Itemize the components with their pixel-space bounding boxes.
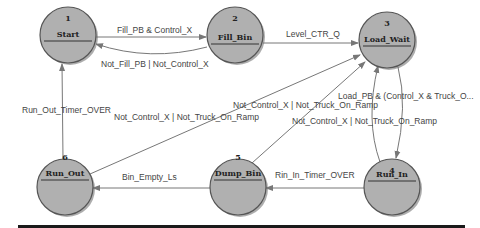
- node-label: Run_In: [376, 169, 408, 179]
- node-label: Fill_Bin: [218, 32, 253, 42]
- edge-fill-bin-to-start[interactable]: [96, 44, 207, 54]
- bottom-divider: [18, 225, 465, 228]
- edge-load-wait-to-run-in[interactable]: [396, 67, 403, 158]
- edge-run-in-to-load-wait[interactable]: [372, 66, 380, 162]
- node-number: 2: [232, 13, 238, 23]
- node-number: 5: [235, 152, 241, 162]
- node-start[interactable]: 1 Start: [40, 7, 98, 65]
- edge-label-dump-bin-load-wait: Not_Control_X | Not_Truck_On_Ramp: [233, 100, 378, 110]
- edge-dump-bin-to-load-wait[interactable]: [252, 62, 365, 163]
- edge-label-start-fill-bin: Fill_PB & Control_X: [117, 25, 192, 35]
- edge-label-fill-bin-start: Not_Fill_PB | Not_Control_X: [101, 59, 209, 69]
- node-number: 3: [384, 18, 390, 28]
- edge-label-run-in-load-wait: Not_Control_X | Not_Truck_On_Ramp: [292, 116, 437, 126]
- node-load-wait[interactable]: 3 Load_Wait: [359, 12, 417, 70]
- edge-label-run-out-load-wait: Not_Control_X | Not_Truck_On_Ramp: [114, 112, 259, 122]
- node-label: Load_Wait: [364, 34, 410, 44]
- node-label: Dump_Bin: [215, 168, 262, 178]
- node-label: Start: [57, 29, 80, 39]
- node-number: 6: [62, 152, 68, 162]
- node-run-in[interactable]: 4 Run_In: [364, 159, 422, 217]
- edge-label-run-in-dump-bin: Rin_In_Timer_OVER: [275, 170, 355, 180]
- edge-label-run-out-start: Run_Out_Timer_OVER: [22, 105, 111, 115]
- node-label: Run_Out: [46, 168, 85, 178]
- state-diagram: Fill_PB & Control_X Not_Fill_PB | Not_Co…: [0, 0, 480, 228]
- edge-label-dump-bin-run-out: Bin_Empty_Ls: [122, 172, 177, 182]
- node-run-out[interactable]: 6 Run_Out: [37, 152, 95, 217]
- node-fill-bin[interactable]: 2 Fill_Bin: [207, 7, 265, 65]
- edge-label-fill-bin-load-wait: Level_CTR_Q: [286, 29, 340, 39]
- node-dump-bin[interactable]: 5 Dump_Bin: [210, 152, 268, 217]
- node-number: 1: [65, 13, 71, 23]
